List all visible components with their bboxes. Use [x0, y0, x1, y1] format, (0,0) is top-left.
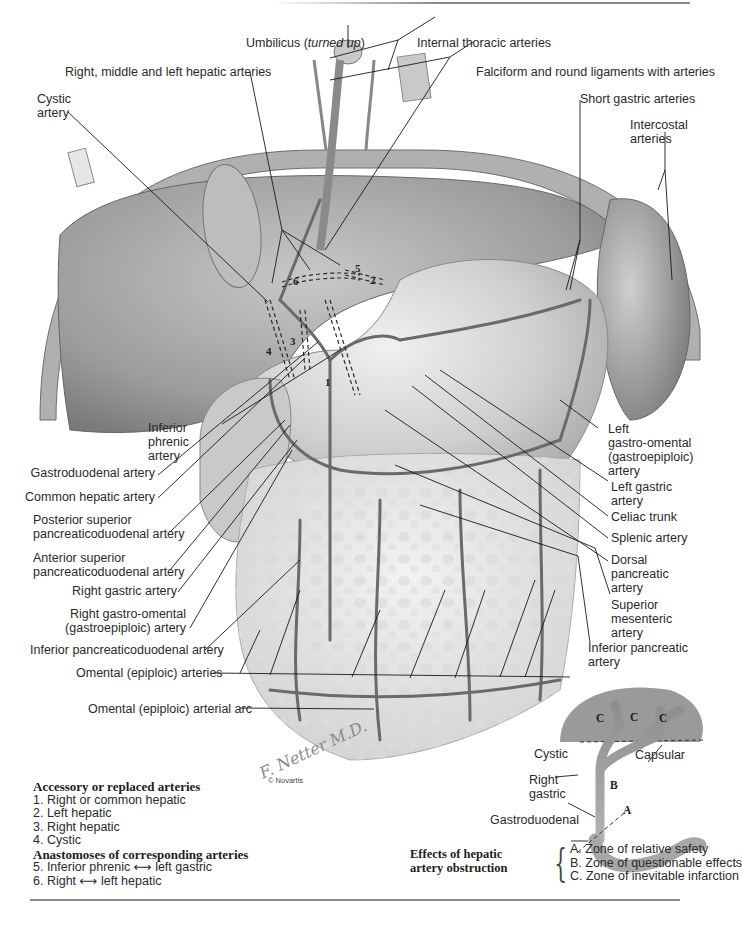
label-line: gastric [529, 787, 566, 801]
legend-heading-anastomoses: Anastomoses of corresponding arteries [33, 848, 248, 862]
label-line: gastro-omental [608, 436, 693, 450]
marker-6: 6 [293, 275, 299, 287]
label-line: artery [588, 655, 688, 669]
label-cystic-line2: artery [37, 106, 71, 120]
label-line: phrenic [148, 435, 189, 449]
label-line: pancreatic [611, 567, 669, 581]
effects-item-c: C. Zone of inevitable infarction [570, 870, 742, 884]
inset-label-cystic: Cystic [534, 747, 568, 761]
label-intercostal-line1: Intercostal [630, 118, 688, 132]
legend-item: 1. Right or common hepatic [33, 794, 248, 808]
effects-heading-line1: Effects of hepatic [410, 847, 538, 861]
label-inferior-pancreatic: Inferior pancreatic artery [588, 641, 688, 669]
label-umbilicus-close: ) [361, 36, 365, 50]
legend-heading-accessory: Accessory or replaced arteries [33, 780, 248, 794]
label-omental-arteries: Omental (epiploic) arteries [76, 666, 223, 680]
label-short-gastric: Short gastric arteries [580, 92, 695, 106]
inset-zone-b: B [610, 779, 618, 791]
legend: Accessory or replaced arteries 1. Right … [33, 780, 248, 888]
label-splenic: Splenic artery [611, 531, 687, 545]
label-cystic-line1: Cystic [37, 92, 71, 106]
marker-5: 5 [355, 262, 361, 274]
legend-item-text: 6. Right [33, 874, 80, 888]
label-right-gastro-omental: Right gastro-omental (gastroepiploic) ar… [65, 607, 186, 635]
label-inferior-pd: Inferior pancreaticoduodenal artery [30, 643, 224, 657]
marker-1: 1 [325, 376, 331, 388]
copyright: © Novartis [268, 776, 303, 785]
label-line: Right gastro-omental [65, 607, 186, 621]
label-line: Inferior pancreatic [588, 641, 688, 655]
inset-zone-a: A [623, 804, 631, 816]
label-posterior-superior-pd: Posterior superior pancreaticoduodenal a… [33, 513, 185, 541]
legend-item-text: 5. Inferior phrenic [33, 860, 134, 874]
label-line: Superior [611, 598, 672, 612]
inset-label-right-gastric: Right gastric [529, 773, 566, 801]
label-line: (gastroepiploic) artery [65, 621, 186, 635]
label-line: pancreaticoduodenal artery [33, 565, 185, 579]
label-line: artery [608, 464, 693, 478]
effects-item-a: A. Zone of relative safety [570, 843, 742, 857]
label-line: (gastroepiploic) [608, 450, 693, 464]
legend-item-text: left hepatic [97, 874, 161, 888]
inset-label-gastroduodenal: Gastroduodenal [490, 813, 579, 827]
label-superior-mesenteric: Superior mesenteric artery [611, 598, 672, 640]
label-internal-thoracic: Internal thoracic arteries [417, 36, 551, 50]
legend-item: 3. Right hepatic [33, 821, 248, 835]
label-umbilicus-italic: turned up [308, 36, 361, 50]
label-line: mesenteric [611, 612, 672, 626]
double-arrow-icon: ⟷ [80, 874, 98, 888]
label-line: Left [608, 422, 693, 436]
brace-icon: { [554, 840, 567, 884]
inset-zone-c3: C [659, 712, 667, 724]
label-celiac-trunk: Celiac trunk [611, 510, 677, 524]
label-line: pancreaticoduodenal artery [33, 527, 185, 541]
legend-item: 2. Left hepatic [33, 807, 248, 821]
effects-heading: Effects of hepatic artery obstruction [410, 847, 538, 875]
legend-item: 5. Inferior phrenic ⟷ left gastric [33, 861, 248, 875]
label-inferior-phrenic: Inferior phrenic artery [148, 421, 189, 463]
legend-item: 6. Right ⟷ left hepatic [33, 875, 248, 889]
label-line: artery [148, 449, 189, 463]
marker-3: 3 [290, 335, 296, 347]
label-line: Inferior [148, 421, 189, 435]
inset-zone-c1: C [596, 712, 604, 724]
label-line: Posterior superior [33, 513, 185, 527]
legend-item: 4. Cystic [33, 834, 248, 848]
label-left-gastro-omental: Left gastro-omental (gastroepiploic) art… [608, 422, 693, 478]
label-umbilicus-text: Umbilicus ( [246, 36, 308, 50]
label-intercostal-line2: arteries [630, 132, 688, 146]
label-intercostal: Intercostal arteries [630, 118, 688, 146]
label-anterior-superior-pd: Anterior superior pancreaticoduodenal ar… [33, 551, 185, 579]
double-arrow-icon: ⟷ [134, 860, 152, 874]
inset-label-capsular: Capsular [635, 748, 685, 762]
marker-4: 4 [266, 345, 272, 357]
label-line: Dorsal [611, 553, 669, 567]
label-omental-arc: Omental (epiploic) arterial arc [88, 702, 252, 716]
label-umbilicus: Umbilicus (turned up) [246, 36, 365, 50]
label-gastroduodenal: Gastroduodenal artery [31, 466, 155, 480]
label-common-hepatic: Common hepatic artery [25, 490, 155, 504]
label-line: Left gastric [611, 480, 672, 494]
label-left-gastric: Left gastric artery [611, 480, 672, 508]
label-cystic-artery: Cystic artery [37, 92, 71, 120]
label-line: artery [611, 494, 672, 508]
effects-heading-line2: artery obstruction [410, 861, 538, 875]
inset-zone-c2: C [630, 711, 638, 723]
bottom-rule [30, 899, 680, 901]
label-line: Anterior superior [33, 551, 185, 565]
effects-item-b: B. Zone of questionable effects [570, 857, 742, 871]
label-right-gastric: Right gastric artery [72, 584, 177, 598]
label-hepatic-arteries: Right, middle and left hepatic arteries [65, 65, 271, 79]
label-line: artery [611, 626, 672, 640]
effects-list: A. Zone of relative safety B. Zone of qu… [570, 843, 742, 884]
legend-item-text: left gastric [152, 860, 212, 874]
label-falciform: Falciform and round ligaments with arter… [476, 65, 715, 79]
label-dorsal-pancreatic: Dorsal pancreatic artery [611, 553, 669, 595]
label-line: Right [529, 773, 566, 787]
marker-2: 2 [370, 274, 376, 286]
label-line: artery [611, 581, 669, 595]
